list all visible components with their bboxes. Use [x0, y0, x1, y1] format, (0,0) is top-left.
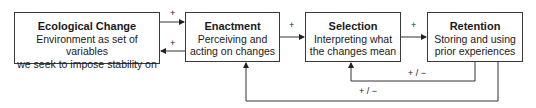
box-ecological-change: Ecological Change Environment as set of …	[14, 12, 160, 64]
box-desc-line2: the changes mean	[306, 45, 400, 58]
box-title: Ecological Change	[15, 20, 159, 33]
label-ret-to-sel: + / −	[408, 68, 426, 78]
label-sel-to-ret: +	[411, 20, 416, 30]
box-title: Enactment	[186, 20, 279, 33]
box-desc-line1: Environment as set of variables	[15, 33, 159, 58]
box-desc-line2: acting on changes	[186, 45, 279, 58]
box-desc-line2: prior experiences	[428, 45, 522, 58]
label-eco-to-enact: +	[170, 8, 175, 18]
box-title: Retention	[428, 20, 522, 33]
label-ret-to-enact: + / −	[359, 86, 377, 96]
box-desc-line2: we seek to impose stability on	[15, 58, 159, 71]
box-desc-line1: Interpreting what	[306, 33, 400, 46]
box-desc-line1: Perceiving and	[186, 33, 279, 46]
label-enact-to-sel: +	[289, 20, 294, 30]
box-enactment: Enactment Perceiving and acting on chang…	[185, 12, 280, 62]
box-desc-line1: Storing and using	[428, 33, 522, 46]
box-retention: Retention Storing and using prior experi…	[427, 12, 523, 62]
label-enact-to-eco: +	[170, 38, 175, 48]
box-selection: Selection Interpreting what the changes …	[305, 12, 401, 62]
box-title: Selection	[306, 20, 400, 33]
